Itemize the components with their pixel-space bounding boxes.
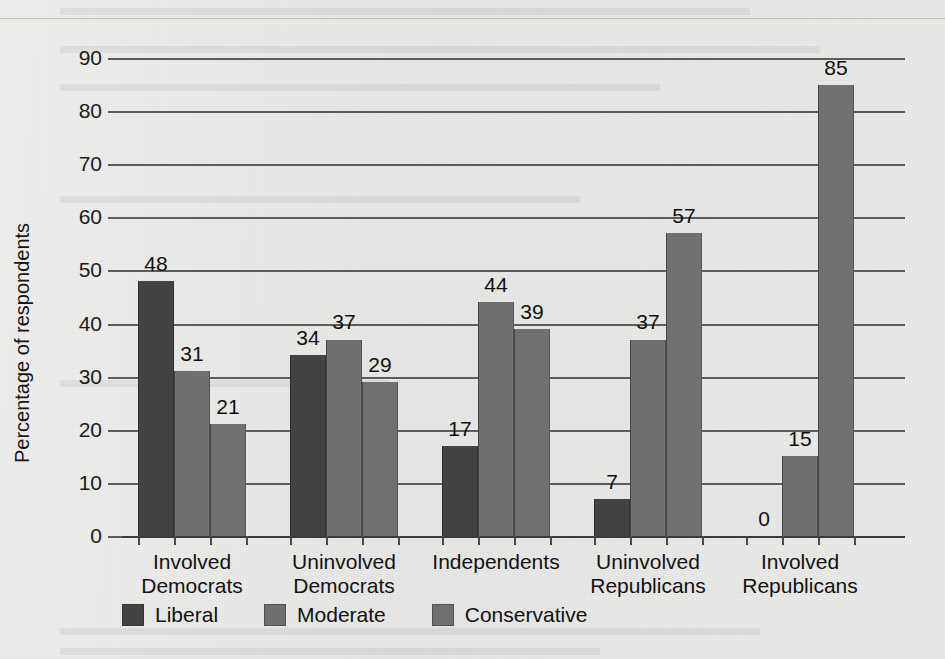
x-tick	[478, 536, 480, 545]
x-axis-label-line: Uninvolved	[292, 550, 396, 574]
y-tick-60	[108, 217, 122, 219]
x-tick	[550, 536, 552, 545]
x-tick	[362, 536, 364, 545]
bar-value-label: 85	[824, 56, 847, 80]
x-tick	[854, 536, 856, 545]
chart-legend: LiberalModerateConservative	[122, 603, 633, 627]
bar-moderate-1	[326, 340, 362, 537]
bar-value-label: 37	[636, 310, 659, 334]
x-axis-group-label-4: InvolvedRepublicans	[742, 550, 858, 597]
x-tick	[174, 536, 176, 545]
legend-label-conservative: Conservative	[465, 603, 588, 627]
x-tick	[702, 536, 704, 545]
bar-conservative-1	[362, 382, 398, 536]
y-tick-label-70: 70	[79, 152, 102, 176]
x-tick	[326, 536, 328, 545]
bar-liberal-3	[594, 499, 630, 536]
y-tick-10	[108, 483, 122, 485]
x-axis-label-line: Involved	[141, 550, 243, 574]
legend-item-moderate: Moderate	[264, 603, 386, 627]
y-tick-label-0: 0	[90, 524, 102, 548]
bar-value-label: 21	[216, 395, 239, 419]
bar-value-label: 44	[484, 273, 507, 297]
bar-liberal-1	[290, 355, 326, 536]
bar-conservative-4	[818, 85, 854, 536]
bar-value-label: 7	[606, 470, 618, 494]
y-tick-label-50: 50	[79, 258, 102, 282]
y-tick-label-90: 90	[79, 46, 102, 70]
y-tick-label-30: 30	[79, 365, 102, 389]
y-tick-30	[108, 377, 122, 379]
legend-label-liberal: Liberal	[155, 603, 218, 627]
bar-value-label: 17	[448, 417, 471, 441]
x-axis-group-label-0: InvolvedDemocrats	[141, 550, 243, 597]
bar-value-label: 48	[144, 252, 167, 276]
bar-value-label: 57	[672, 204, 695, 228]
bar-value-label: 15	[788, 427, 811, 451]
x-tick	[442, 536, 444, 545]
bar-chart-figure: Percentage of respondents 01020304050607…	[0, 0, 945, 659]
x-tick	[398, 536, 400, 545]
bar-value-label: 37	[332, 310, 355, 334]
gridline-70	[122, 164, 905, 166]
x-axis-group-label-1: UninvolvedDemocrats	[292, 550, 396, 597]
y-axis-label: Percentage of respondents	[11, 223, 34, 463]
x-axis-label-line: Democrats	[141, 574, 243, 598]
x-axis-label-line: Republicans	[742, 574, 858, 598]
gridline-90	[122, 58, 905, 60]
y-tick-90	[108, 58, 122, 60]
y-tick-label-20: 20	[79, 418, 102, 442]
bar-value-label: 34	[296, 326, 319, 350]
bar-value-label: 31	[180, 342, 203, 366]
x-axis-label-line: Involved	[742, 550, 858, 574]
x-axis-label-line: Uninvolved	[590, 550, 706, 574]
y-tick-80	[108, 111, 122, 113]
x-axis-group-label-3: UninvolvedRepublicans	[590, 550, 706, 597]
y-tick-0	[108, 536, 122, 538]
bar-value-label: 29	[368, 353, 391, 377]
legend-label-moderate: Moderate	[297, 603, 386, 627]
x-tick	[818, 536, 820, 545]
x-tick	[514, 536, 516, 545]
y-tick-70	[108, 164, 122, 166]
x-tick	[290, 536, 292, 545]
legend-swatch-liberal	[122, 604, 144, 626]
x-axis-label-line: Independents	[432, 550, 559, 574]
gridline-60	[122, 217, 905, 219]
y-tick-20	[108, 430, 122, 432]
x-tick	[138, 536, 140, 545]
bar-value-label: 0	[758, 507, 770, 531]
x-tick	[594, 536, 596, 545]
bar-conservative-2	[514, 329, 550, 536]
y-tick-50	[108, 270, 122, 272]
x-tick	[782, 536, 784, 545]
y-tick-label-40: 40	[79, 312, 102, 336]
bar-liberal-0	[138, 281, 174, 536]
x-axis-label-line: Republicans	[590, 574, 706, 598]
bar-conservative-3	[666, 233, 702, 536]
x-tick	[666, 536, 668, 545]
x-tick	[246, 536, 248, 545]
y-tick-40	[108, 324, 122, 326]
bar-liberal-2	[442, 446, 478, 536]
bar-moderate-0	[174, 371, 210, 536]
y-tick-label-80: 80	[79, 99, 102, 123]
plot-area: 0102030405060708090483121InvolvedDemocra…	[122, 58, 905, 536]
x-tick	[746, 536, 748, 545]
bar-moderate-4	[782, 456, 818, 536]
x-tick	[210, 536, 212, 545]
bar-value-label: 39	[520, 300, 543, 324]
x-axis-group-label-2: Independents	[432, 550, 559, 574]
legend-item-conservative: Conservative	[432, 603, 588, 627]
x-axis-label-line: Democrats	[292, 574, 396, 598]
bar-moderate-3	[630, 340, 666, 537]
y-tick-label-60: 60	[79, 205, 102, 229]
y-tick-label-10: 10	[79, 471, 102, 495]
legend-swatch-moderate	[264, 604, 286, 626]
gridline-80	[122, 111, 905, 113]
bar-conservative-0	[210, 424, 246, 536]
bar-moderate-2	[478, 302, 514, 536]
legend-item-liberal: Liberal	[122, 603, 218, 627]
x-tick	[630, 536, 632, 545]
legend-swatch-conservative	[432, 604, 454, 626]
